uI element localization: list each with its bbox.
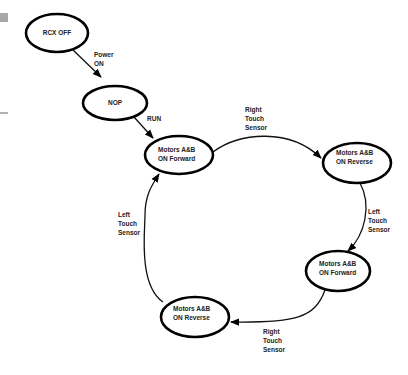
edge-label-line: Touch <box>368 217 387 224</box>
node-label-line2: ON Forward <box>158 155 195 162</box>
edge-label-line: Sensor <box>368 226 391 233</box>
edge-label-right-touch-2: Right Touch Sensor <box>263 328 286 353</box>
edge-label-line: Sensor <box>245 124 268 131</box>
node-motors-forward-1: Motors A&B ON Forward <box>145 136 213 174</box>
margin-block <box>0 13 8 22</box>
edge-label-line: Sensor <box>118 229 141 236</box>
edge-label-line: Touch <box>263 337 282 344</box>
edge-label-line: Sensor <box>263 346 286 353</box>
node-nop: NOP <box>83 86 147 120</box>
edge-label-line: Power <box>94 51 114 58</box>
edge-label-line: Left <box>118 211 131 218</box>
edge-label-run: RUN <box>147 115 161 122</box>
node-label-line2: ON Reverse <box>173 314 210 321</box>
node-label-line1: Motors A&B <box>319 260 357 267</box>
node-label-line2: ON Reverse <box>336 158 373 165</box>
edge-label-line: RUN <box>147 115 161 122</box>
node-rcx-off: RCX OFF <box>26 14 88 52</box>
edge-left-touch-2 <box>144 174 163 302</box>
edge-label-line: Left <box>368 208 381 215</box>
edge-left-touch-1 <box>348 183 366 251</box>
edge-label-line: Right <box>263 328 280 336</box>
edge-label-line: Touch <box>245 115 264 122</box>
edge-right-touch-2 <box>231 290 325 322</box>
node-label-line1: Motors A&B <box>336 149 374 156</box>
node-motors-reverse-2: Motors A&B ON Reverse <box>161 297 229 337</box>
edge-label-line: Touch <box>118 220 137 227</box>
node-label: RCX OFF <box>43 29 72 36</box>
edge-label-line: ON <box>94 60 104 67</box>
node-label-line1: Motors A&B <box>173 305 211 312</box>
edge-right-touch-1 <box>213 136 321 158</box>
node-motors-reverse-1: Motors A&B ON Reverse <box>323 143 391 183</box>
edge-label-left-touch-1: Left Touch Sensor <box>368 208 391 233</box>
edge-label-line: Right <box>245 106 262 114</box>
node-label-line2: ON Forward <box>319 269 356 276</box>
edge-label-power-on: Power ON <box>94 51 114 67</box>
state-diagram: RCX OFF NOP Motors A&B ON Forward Motors… <box>0 0 408 375</box>
node-motors-forward-2: Motors A&B ON Forward <box>306 251 370 291</box>
node-label-line1: Motors A&B <box>158 146 196 153</box>
node-label: NOP <box>108 99 123 106</box>
edge-label-right-touch-1: Right Touch Sensor <box>245 106 268 131</box>
edge-label-left-touch-2: Left Touch Sensor <box>118 211 141 236</box>
